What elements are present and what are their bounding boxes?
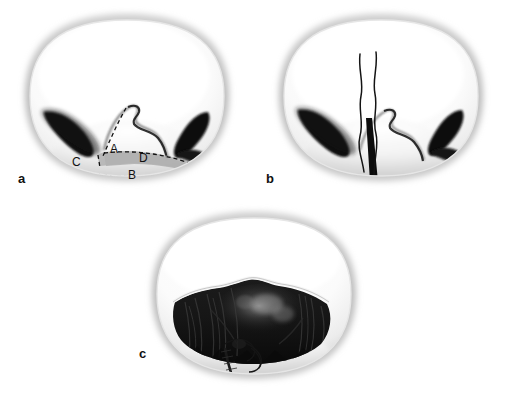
panel-a-illustration: A B C D (0, 0, 254, 198)
panel-label-b: b (266, 172, 274, 185)
panel-c-illustration (127, 198, 381, 396)
panel-c (127, 198, 381, 396)
panel-b-body (254, 0, 508, 198)
figure-root: A B C D (0, 0, 508, 396)
panel-a: A B C D (0, 0, 254, 198)
panel-b-illustration (254, 0, 508, 198)
measure-label-D: D (139, 151, 148, 165)
panel-label-a: a (18, 172, 25, 185)
measure-label-B: B (128, 168, 136, 182)
panel-b (254, 0, 508, 198)
measure-label-A: A (110, 142, 118, 156)
suture-knot (363, 182, 372, 191)
panel-label-c: c (139, 347, 146, 360)
panel-c-body (127, 198, 381, 396)
measure-label-C: C (72, 155, 81, 169)
panel-a-body (0, 0, 254, 198)
